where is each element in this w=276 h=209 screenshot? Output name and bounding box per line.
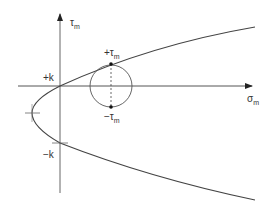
yield-parabola [32, 27, 255, 200]
plus-tau-label: +τm [104, 47, 120, 60]
yield-locus-diagram: τm σm +k −k +τm −τm [0, 0, 276, 209]
sigma-axis-label: σm [247, 93, 259, 106]
minus-tau-point [109, 105, 113, 109]
tau-axis-label: τm [70, 17, 80, 30]
minus-k-label: −k [43, 149, 55, 160]
plus-k-label: +k [43, 72, 55, 83]
minus-tau-label: −τm [104, 111, 120, 124]
plus-tau-point [109, 62, 113, 66]
